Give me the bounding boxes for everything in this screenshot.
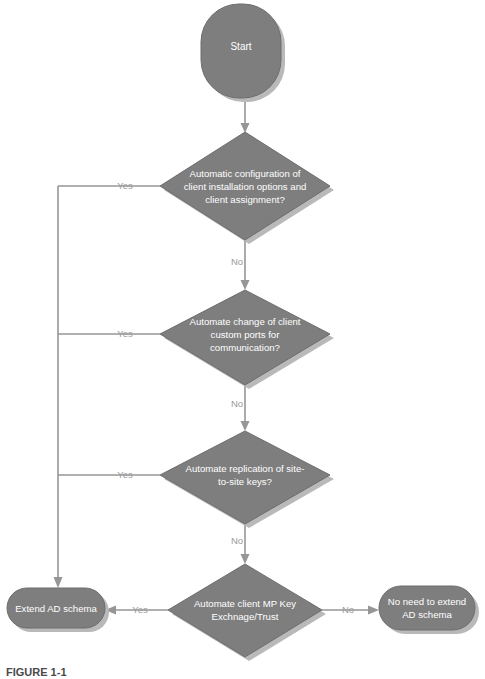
edge-label-decision3-no: No <box>231 535 243 546</box>
edge-label-decision2-no: No <box>231 398 243 409</box>
node-decision3[interactable]: Automate replication of site- to-site ke… <box>160 431 334 528</box>
node-decision1-line3: client assignment? <box>205 194 284 205</box>
edge-label-decision3-yes: Yes <box>117 469 133 480</box>
node-decision4[interactable]: Automate client MP Key Exchnage/Trust <box>168 564 326 661</box>
node-extend-label: Extend AD schema <box>15 603 97 614</box>
edge-label-decision2-yes: Yes <box>117 328 133 339</box>
node-decision4-line2: Exchnage/Trust <box>212 611 279 622</box>
node-noextend-line1: No need to extend <box>388 596 466 607</box>
node-noextend-line2: AD schema <box>402 609 452 620</box>
node-decision4-line1: Automate client MP Key <box>194 598 296 609</box>
node-decision2-line1: Automate change of client <box>190 316 301 327</box>
arrowhead-yes-rail-into-extend <box>54 577 63 588</box>
arrowhead-decision3-no <box>241 554 250 564</box>
node-decision1-line2: client installation options and <box>184 181 307 192</box>
node-decision2-line2: custom ports for <box>211 329 281 340</box>
node-decision1-line1: Automatic configuration of <box>190 168 301 179</box>
figure-caption: FIGURE 1-1 <box>6 666 67 678</box>
node-decision2-line3: communication? <box>210 342 280 353</box>
edge-label-decision1-yes: Yes <box>117 180 133 191</box>
flowchart-canvas: No No No Yes Yes Yes Yes No <box>0 0 485 679</box>
node-decision3-line2: to-site keys? <box>218 476 272 487</box>
node-decision3-line1: Automate replication of site- <box>186 463 305 474</box>
node-extend-ad-schema[interactable]: Extend AD schema <box>7 588 109 632</box>
arrowhead-decision1-no <box>241 280 250 290</box>
node-start-label: Start <box>230 41 251 52</box>
edge-label-decision4-no: No <box>342 604 354 615</box>
arrowhead-decision2-no <box>241 421 250 431</box>
node-decision1[interactable]: Automatic configuration of client instal… <box>160 132 334 244</box>
flowchart-page: No No No Yes Yes Yes Yes No <box>0 0 485 679</box>
node-no-need-to-extend-ad-schema[interactable]: No need to extend AD schema <box>379 586 479 634</box>
node-start[interactable]: Start <box>201 4 285 102</box>
edge-label-decision1-no: No <box>231 256 243 267</box>
edge-label-decision4-yes: Yes <box>132 604 148 615</box>
node-decision2[interactable]: Automate change of client custom ports f… <box>160 290 334 389</box>
arrowhead-decision4-no <box>368 606 379 615</box>
